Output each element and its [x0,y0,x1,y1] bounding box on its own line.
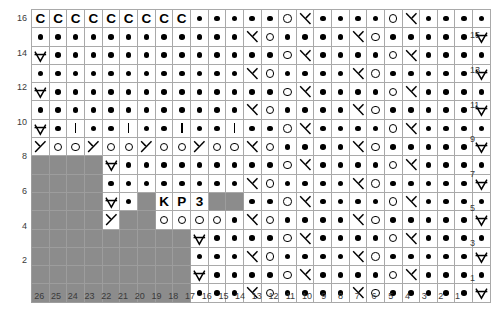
cell-purl [243,10,261,28]
cell-no-stitch [85,211,103,229]
cell-purl [138,46,156,64]
cell-no-stitch [85,156,103,174]
cell-purl [314,46,332,64]
cell-purl [32,64,50,82]
cell-purl [138,28,156,46]
chart-row [32,101,491,119]
cell-purl [155,174,173,192]
cell-right-leaning-decrease [296,229,314,247]
cell-no-stitch [32,229,50,247]
cell-right-leaning-decrease [402,229,420,247]
cell-yarn-over [384,266,402,284]
cell-no-stitch [67,156,85,174]
knitting-chart: CCCCCCCCCKP3 161412108642151311975312625… [0,0,491,310]
cell-purl [402,247,420,265]
cell-purl [243,229,261,247]
cell-no-stitch [138,192,156,210]
column-label-17: 17 [181,291,199,301]
row-label-right-11: 11 [470,100,490,110]
cell-centered-double-decrease [102,192,120,210]
cell-purl [314,119,332,137]
cell-centered-double-decrease [32,119,50,137]
cell-purl [332,138,350,156]
cell-no-stitch [49,266,67,284]
cell-purl [349,192,367,210]
cell-purl [279,64,297,82]
cell-purl [261,10,279,28]
cell-purl [155,46,173,64]
cell-purl [384,138,402,156]
chart-row: CCCCCCCCC [32,10,491,28]
row-label-right-3: 3 [470,238,490,248]
cell-purl [384,64,402,82]
cell-right-leaning-decrease [296,192,314,210]
cell-no-stitch [226,192,244,210]
cell-yarn-over [367,247,385,265]
cell-yarn-over [279,229,297,247]
cell-purl [367,119,385,137]
chart-row [32,266,491,284]
cell-purl [420,46,438,64]
cell-right-leaning-decrease [296,119,314,137]
cell-right-leaning-decrease [243,64,261,82]
cell-purl [314,174,332,192]
cell-purl [314,10,332,28]
cell-yarn-over [67,138,85,156]
cell-purl [173,28,191,46]
cell-purl [102,64,120,82]
column-label-24: 24 [64,291,82,301]
cell-purl [437,101,455,119]
cell-centered-double-decrease [191,266,209,284]
cell-right-leaning-decrease [402,46,420,64]
cell-purl [279,101,297,119]
cell-purl [437,28,455,46]
cell-knit [226,119,244,137]
cell-purl [85,46,103,64]
cell-left-leaning-decrease [138,138,156,156]
cell-purl [243,83,261,101]
cell-purl [420,28,438,46]
chart-row [32,247,491,265]
cell-cast-off: C [67,10,85,28]
cell-purl [420,138,438,156]
cell-purl [191,46,209,64]
cell-right-leaning-decrease [402,192,420,210]
cell-purl [420,211,438,229]
cell-no-stitch [67,266,85,284]
cell-purl [314,101,332,119]
cell-no-stitch [67,174,85,192]
cell-purl [367,266,385,284]
cell-no-stitch [138,211,156,229]
cell-right-leaning-decrease [402,156,420,174]
cell-purl [473,83,491,101]
cell-purl [138,174,156,192]
column-label-12: 12 [265,291,283,301]
cell-purl [296,28,314,46]
cell-yarn-over [102,138,120,156]
cell-purl [120,192,138,210]
row-label-left-16: 16 [7,13,27,23]
cell-purl [314,266,332,284]
cell-purl [332,266,350,284]
cell-purl [402,28,420,46]
cell-yarn-over [384,192,402,210]
cell-purl [279,211,297,229]
cell-purl [332,64,350,82]
cell-purl [314,64,332,82]
cell-cast-off: C [120,10,138,28]
cell-purl [85,83,103,101]
cell-purl [384,247,402,265]
cell-purl [120,156,138,174]
cell-right-leaning-decrease [402,119,420,137]
cell-purl [349,156,367,174]
cell-purl [173,156,191,174]
cell-yarn-over [384,229,402,247]
cell-purl [32,101,50,119]
row-label-left-6: 6 [7,186,27,196]
cell-purl [120,64,138,82]
cell-yarn-over [279,192,297,210]
cell-right-leaning-decrease [296,156,314,174]
cell-purl [120,83,138,101]
cell-purl [296,247,314,265]
cell-purl [437,138,455,156]
